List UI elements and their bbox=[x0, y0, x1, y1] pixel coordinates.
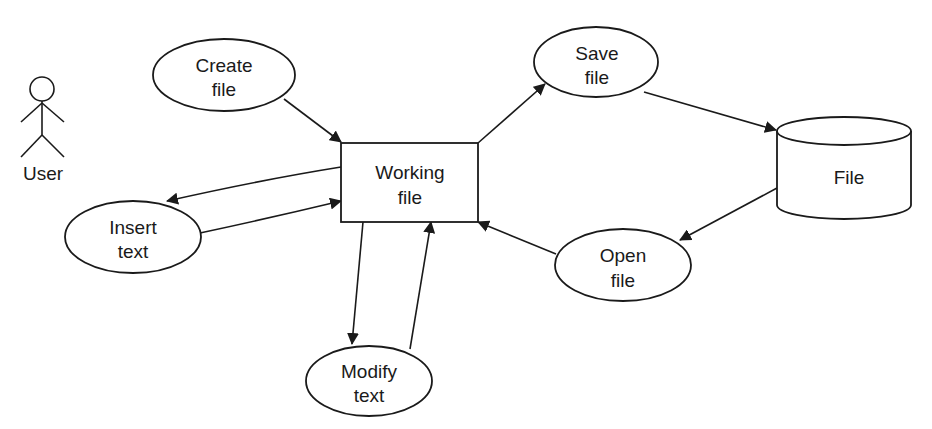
node-modify-text: Modify text bbox=[306, 346, 432, 416]
node-working-file: Working file bbox=[341, 143, 478, 222]
node-label-line2: file bbox=[398, 187, 422, 208]
edge-modify-to-working bbox=[410, 222, 431, 349]
edge-save-to-file bbox=[644, 92, 776, 130]
edge-create-to-working bbox=[284, 99, 341, 142]
node-label: File bbox=[834, 167, 865, 188]
edge-working-to-save bbox=[478, 84, 545, 143]
edge-file-to-open bbox=[680, 188, 777, 240]
node-label-line1: Open bbox=[600, 245, 646, 266]
edge-open-to-working bbox=[478, 222, 556, 254]
actor-label: User bbox=[23, 163, 64, 184]
node-label-line2: file bbox=[212, 79, 236, 100]
node-file-store: File bbox=[777, 117, 911, 219]
actor-user: User bbox=[21, 77, 64, 184]
stick-figure-icon bbox=[21, 77, 64, 157]
node-label-line2: file bbox=[611, 270, 635, 291]
edge-insert-to-working bbox=[200, 201, 341, 233]
node-create-file: Create file bbox=[153, 39, 295, 111]
node-label-line1: Save bbox=[575, 43, 618, 64]
node-label-line2: text bbox=[354, 385, 385, 406]
node-label-line1: Modify bbox=[341, 361, 397, 382]
edge-working-to-modify bbox=[352, 222, 363, 344]
node-label-line1: Insert bbox=[109, 217, 157, 238]
node-label-line2: file bbox=[585, 67, 609, 88]
node-save-file: Save file bbox=[534, 27, 658, 97]
node-open-file: Open file bbox=[555, 229, 691, 301]
node-label-line2: text bbox=[118, 241, 149, 262]
edge-working-to-insert bbox=[167, 167, 341, 201]
data-flow-diagram: User Create file Insert text Workin bbox=[0, 0, 932, 429]
node-insert-text: Insert text bbox=[65, 201, 201, 273]
node-label-line1: Create bbox=[195, 55, 252, 76]
node-label-line1: Working bbox=[375, 162, 444, 183]
